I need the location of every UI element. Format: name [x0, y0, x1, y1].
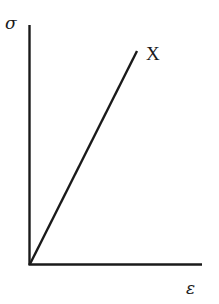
line-label-x: X	[146, 44, 160, 63]
x-axis-label: ε	[186, 280, 195, 297]
stress-strain-diagram	[0, 0, 219, 304]
y-axis-label: σ	[5, 15, 17, 32]
line-x	[30, 51, 137, 264]
